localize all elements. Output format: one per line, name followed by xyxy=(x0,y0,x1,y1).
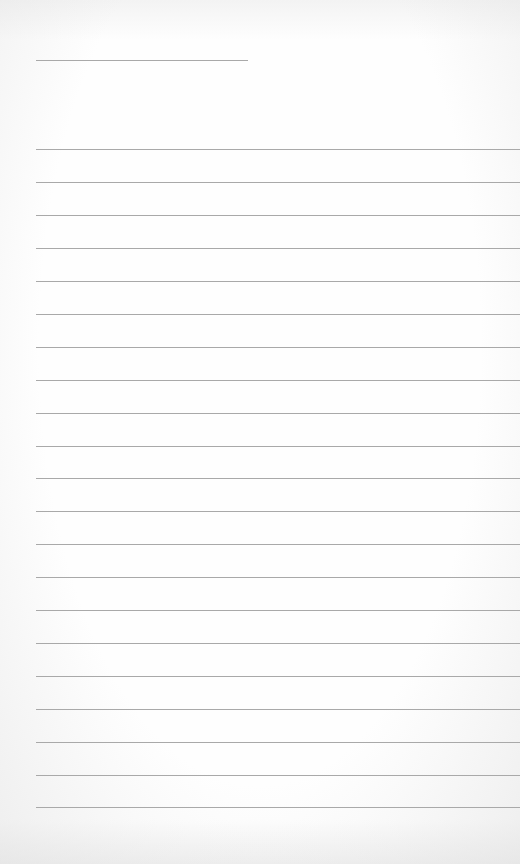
title-underline xyxy=(36,60,248,61)
ruled-line xyxy=(36,577,520,578)
ruled-line xyxy=(36,610,520,611)
ruled-line xyxy=(36,511,520,512)
ruled-line xyxy=(36,248,520,249)
ruled-line xyxy=(36,413,520,414)
ruled-line xyxy=(36,446,520,447)
ruled-line xyxy=(36,380,520,381)
ruled-line xyxy=(36,709,520,710)
ruled-line xyxy=(36,182,520,183)
ruled-line xyxy=(36,807,520,808)
ruled-line xyxy=(36,742,520,743)
ruled-line xyxy=(36,314,520,315)
ruled-line xyxy=(36,347,520,348)
ruled-line xyxy=(36,643,520,644)
lined-paper-sheet xyxy=(0,0,520,864)
ruled-line xyxy=(36,544,520,545)
ruled-line xyxy=(36,149,520,150)
ruled-line xyxy=(36,676,520,677)
ruled-line xyxy=(36,775,520,776)
ruled-line xyxy=(36,215,520,216)
ruled-line xyxy=(36,281,520,282)
ruled-line xyxy=(36,478,520,479)
